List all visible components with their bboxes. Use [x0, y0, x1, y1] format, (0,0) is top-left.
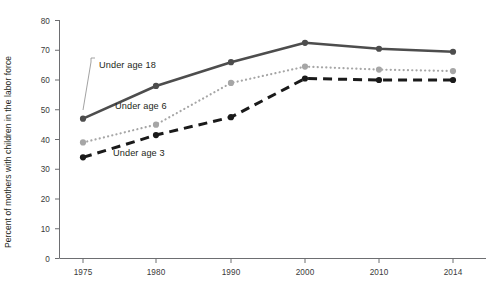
- x-axis-ticks: 1975 1980 1990 2000 2010 2014: [74, 259, 463, 278]
- y-tick-label: 0: [45, 255, 50, 264]
- y-tick-label: 70: [41, 46, 51, 55]
- data-point: [450, 68, 456, 74]
- x-tick-1990: 1990: [222, 259, 241, 278]
- x-tick-2010: 2010: [370, 259, 389, 278]
- data-point: [302, 64, 308, 70]
- data-point: [302, 75, 308, 81]
- y-axis-ticks: 80 70 60 50 40 30: [41, 17, 60, 264]
- x-tick-label: 1975: [74, 268, 93, 277]
- data-point: [153, 132, 159, 138]
- y-tick-20: 20: [41, 195, 60, 204]
- x-tick-label: 2010: [370, 268, 389, 277]
- y-tick-label: 40: [41, 136, 51, 145]
- data-point: [228, 114, 234, 120]
- leader-line-under-age-18: [83, 58, 95, 110]
- series-label-under-age-3: Under age 3: [113, 148, 165, 158]
- line-chart: Percent of mothers with children in the …: [0, 0, 492, 290]
- data-point: [228, 80, 234, 86]
- y-tick-50: 50: [41, 106, 60, 115]
- y-tick-label: 80: [41, 17, 51, 26]
- x-tick-label: 2014: [444, 268, 463, 277]
- x-tick-2014: 2014: [444, 259, 463, 278]
- data-point: [376, 66, 382, 72]
- data-point: [153, 122, 159, 128]
- y-tick-70: 70: [41, 46, 60, 55]
- x-tick-1980: 1980: [147, 259, 166, 278]
- data-point: [80, 154, 86, 160]
- data-point: [450, 77, 456, 83]
- chart-container: Percent of mothers with children in the …: [0, 0, 492, 290]
- series-label-under-age-6: Under age 6: [115, 101, 167, 111]
- data-point: [153, 83, 159, 89]
- data-point: [80, 139, 86, 145]
- data-point: [228, 59, 234, 65]
- data-point: [302, 40, 308, 46]
- series-line-under-age-3: [83, 79, 453, 158]
- x-tick-label: 1990: [222, 268, 241, 277]
- data-point: [450, 49, 456, 55]
- y-tick-0: 0: [45, 255, 59, 264]
- x-tick-label: 1980: [147, 268, 166, 277]
- y-tick-60: 60: [41, 76, 60, 85]
- x-tick-2000: 2000: [296, 259, 315, 278]
- y-tick-80: 80: [41, 17, 60, 26]
- data-point: [80, 116, 86, 122]
- y-tick-label: 30: [41, 165, 51, 174]
- y-axis-title: Percent of mothers with children in the …: [3, 56, 13, 248]
- y-tick-30: 30: [41, 165, 60, 174]
- x-tick-1975: 1975: [74, 259, 93, 278]
- data-point: [376, 77, 382, 83]
- y-tick-label: 60: [41, 76, 51, 85]
- y-tick-10: 10: [41, 225, 60, 234]
- data-point: [376, 46, 382, 52]
- y-tick-label: 10: [41, 225, 51, 234]
- y-tick-label: 20: [41, 195, 51, 204]
- series-label-under-age-18: Under age 18: [99, 60, 156, 70]
- y-tick-40: 40: [41, 136, 60, 145]
- y-tick-label: 50: [41, 106, 51, 115]
- x-tick-label: 2000: [296, 268, 315, 277]
